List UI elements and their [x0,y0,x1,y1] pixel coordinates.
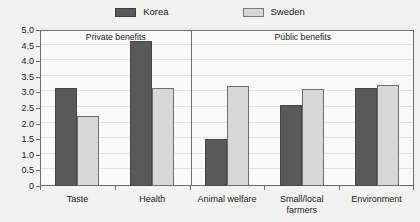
x-axis: TasteHealthAnimal welfareSmall/local far… [40,186,414,222]
korea-swatch-icon [115,8,136,17]
section-title-private-benefits: Private benefits [41,33,191,42]
legend-label-korea: Korea [143,7,168,17]
y-tick-label: 3.0 [21,88,34,97]
sweden-swatch-icon [243,8,264,17]
legend-entry-korea: Korea [115,7,168,17]
x-tick-label: Environment [351,194,402,205]
bar[interactable] [152,88,174,186]
bar[interactable] [205,139,227,186]
y-tick-label: 3.5 [21,72,34,81]
bar[interactable] [130,41,152,186]
gridline [41,75,413,76]
x-tick-mark [264,186,265,190]
x-tick-mark [190,186,191,190]
bar[interactable] [227,86,249,186]
x-tick-mark [339,186,340,190]
bar[interactable] [280,105,302,186]
gridline [41,28,413,29]
y-tick-label: 2.0 [21,119,34,128]
x-tick-label: Health [139,194,165,205]
bar[interactable] [355,88,377,186]
legend-label-sweden: Sweden [271,7,305,17]
section-divider [191,31,192,185]
section-title-public-benefits: Public benefits [191,33,415,42]
bar[interactable] [377,85,399,186]
y-axis: 00.51.01.52.02.53.03.54.04.55.0 [0,30,34,186]
bar[interactable] [77,116,99,186]
x-tick-mark [413,186,414,190]
legend-entry-sweden: Sweden [243,7,305,17]
y-tick-label: 2.5 [21,104,34,113]
bar[interactable] [55,88,77,186]
gridline [41,59,413,60]
chart-legend: Korea Sweden [0,4,420,20]
y-tick-label: 1.0 [21,150,34,159]
x-tick-label: Taste [67,194,89,205]
bar-chart: Korea Sweden 00.51.01.52.02.53.03.54.04.… [0,0,420,222]
x-tick-label: Small/local farmers [280,194,324,217]
y-tick-label: 4.5 [21,41,34,50]
y-tick-label: 4.0 [21,57,34,66]
x-tick-label: Animal welfare [197,194,256,205]
gridline [41,44,413,45]
y-tick-label: 1.5 [21,135,34,144]
bar[interactable] [302,89,324,186]
x-tick-mark [40,186,41,190]
x-tick-mark [115,186,116,190]
y-tick-label: 0 [29,182,34,191]
y-tick-label: 0.5 [21,166,34,175]
y-tick-label: 5.0 [21,26,34,35]
